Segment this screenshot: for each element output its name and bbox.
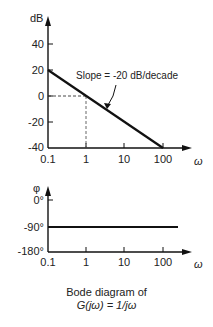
phase-tick-label: 0° xyxy=(33,194,44,206)
magnitude-x-label: ω xyxy=(194,155,203,167)
annotation-pointer-curve xyxy=(108,85,116,105)
phase-x-tick-label: 0.1 xyxy=(40,256,55,268)
phase-tick-label: -90° xyxy=(24,221,44,233)
x-tick-label: 100 xyxy=(154,153,172,165)
phase-x-axis-arrow-icon xyxy=(182,249,192,255)
magnitude-x-ticks xyxy=(86,143,163,148)
magnitude-series-line xyxy=(48,70,163,148)
phase-x-ticks xyxy=(86,247,163,252)
phase-x-tick-label: 100 xyxy=(154,256,172,268)
magnitude-y-label: dB xyxy=(30,12,43,24)
caption-line-2: G(jω) = 1/jω xyxy=(0,299,213,312)
y-tick-label: 40 xyxy=(32,38,44,50)
magnitude-plot: dB ω 40 20 0 -20 -40 0.1 1 10 100 xyxy=(28,12,203,167)
x-tick-label: 0.1 xyxy=(40,153,55,165)
bode-diagram: dB ω 40 20 0 -20 -40 0.1 1 10 100 xyxy=(0,0,213,327)
magnitude-y-axis-arrow-icon xyxy=(45,16,51,26)
phase-x-label: ω xyxy=(194,258,203,270)
phase-y-axis-arrow-icon xyxy=(45,186,51,196)
caption-line-1: Bode diagram of xyxy=(0,286,213,299)
x-tick-label: 10 xyxy=(118,153,130,165)
phase-plot: φ ω 0° -90° -180° 0.1 1 10 100 xyxy=(18,182,203,270)
y-tick-label: 0 xyxy=(38,90,44,102)
phase-x-tick-label: 1 xyxy=(83,256,89,268)
phase-y-ticks xyxy=(48,200,53,227)
y-tick-label: -20 xyxy=(28,116,44,128)
phase-x-tick-label: 10 xyxy=(118,256,130,268)
magnitude-y-ticks xyxy=(48,44,53,122)
slope-annotation: Slope = -20 dB/decade xyxy=(76,70,178,81)
phase-y-label: φ xyxy=(33,182,40,194)
magnitude-x-axis-arrow-icon xyxy=(182,145,192,151)
x-tick-label: 1 xyxy=(83,153,89,165)
y-tick-label: 20 xyxy=(32,64,44,76)
y-tick-label: -40 xyxy=(28,141,44,153)
